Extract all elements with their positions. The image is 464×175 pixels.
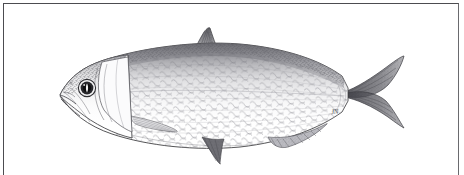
fish-figure [0,0,464,175]
caudal-fin [344,56,404,128]
artist-signature: JN [331,108,339,117]
fish-illustration-svg [0,0,464,175]
pelvic-fin [202,137,224,164]
illustration-plate: JN [0,0,464,175]
eye [78,79,95,96]
